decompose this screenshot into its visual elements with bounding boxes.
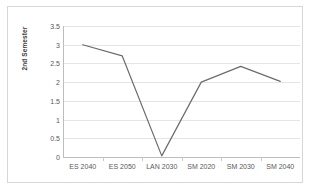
y-axis-tick-label: 3 — [14, 41, 60, 48]
y-axis-tick-label: 1 — [14, 116, 60, 123]
y-axis-tick-label: 0 — [14, 154, 60, 161]
x-axis-tick-label: ES 2040 — [69, 163, 96, 170]
x-axis-tick-mark — [182, 157, 183, 161]
series-polyline — [83, 45, 281, 156]
y-axis-tick-labels: 3.532.521.510.50 — [8, 26, 60, 157]
y-axis-tick-label: 0.5 — [14, 135, 60, 142]
x-axis-tick-mark — [221, 157, 222, 161]
series-line-chart — [63, 26, 300, 157]
x-axis-tick-label: ES 2050 — [109, 163, 136, 170]
x-axis-tick-mark — [103, 157, 104, 161]
y-axis-tick-label: 2 — [14, 79, 60, 86]
y-axis-tick-label: 2.5 — [14, 60, 60, 67]
x-axis-tick-mark — [261, 157, 262, 161]
x-axis-tick-mark — [142, 157, 143, 161]
x-axis-tick-label: LAN 2030 — [146, 163, 177, 170]
x-axis-tick-label: SM 2030 — [227, 163, 255, 170]
y-axis-tick-label: 1.5 — [14, 97, 60, 104]
x-axis-tick-label: SM 2020 — [187, 163, 215, 170]
y-axis-tick-label: 3.5 — [14, 23, 60, 30]
x-axis-tick-label: SM 2040 — [266, 163, 294, 170]
chart-frame: 2nd Semester 3.532.521.510.50 ES 2040ES … — [7, 6, 303, 183]
x-axis-tick-labels: ES 2040ES 2050LAN 2030SM 2020SM 2030SM 2… — [63, 163, 300, 177]
